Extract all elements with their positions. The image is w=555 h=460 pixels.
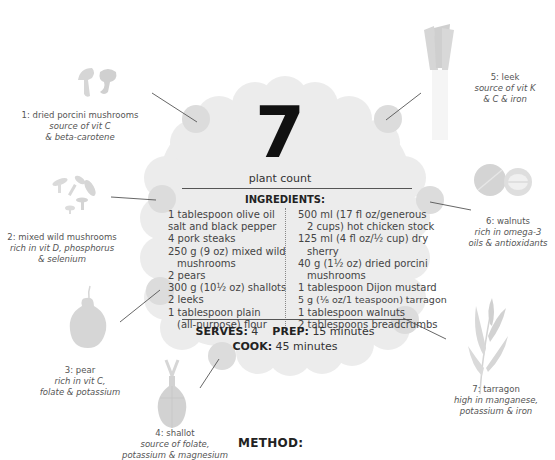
plant-note: potassium & iron	[436, 406, 555, 417]
ingredient-item: 500 ml (17 fl oz/generous	[298, 209, 447, 221]
ingredient-item: 300 g (10½ oz) shallots	[168, 282, 286, 294]
plant-note: high in manganese,	[436, 395, 555, 406]
tarragon-icon	[462, 296, 512, 396]
plant-note: & beta-carotene	[10, 132, 150, 143]
ingredient-item: 1 tablespoon plain	[168, 307, 286, 319]
cook-label: COOK:	[232, 340, 272, 353]
serves-label: SERVES:	[196, 325, 248, 338]
pear-icon	[64, 284, 114, 354]
plant-name: 6: walnuts	[486, 216, 530, 226]
wild-mushrooms-icon	[48, 172, 108, 222]
plant-note: rich in vit D, phosphorus	[0, 243, 124, 254]
ingredient-item: 2 pears	[168, 270, 286, 282]
plant-name: 7: tarragon	[472, 384, 520, 394]
divider-top	[182, 188, 412, 189]
ingredient-item: 2 cups) hot chicken stock	[298, 221, 447, 233]
ingredients-title: INGREDIENTS:	[160, 194, 410, 205]
ingredient-item: 2 leeks	[168, 294, 286, 306]
ingredient-item: 250 g (9 oz) mixed wild	[168, 246, 286, 258]
column-divider	[285, 208, 286, 332]
plant-count-label: plant count	[230, 172, 330, 185]
shallot-icon	[152, 356, 192, 436]
serves-value: 4	[251, 325, 258, 338]
ingredient-item: 1 tablespoon olive oil	[168, 209, 286, 221]
plant-label-leek: 5: leek source of vit K & C & iron	[460, 72, 550, 105]
plant-name: 5: leek	[491, 72, 520, 82]
plant-label-tarragon: 7: tarragon high in manganese, potassium…	[436, 384, 555, 417]
ingredient-item: 5 g (⅛ oz/1 teaspoon) tarragon	[298, 294, 447, 306]
prep-label: PREP:	[272, 325, 309, 338]
ingredient-item: sherry	[298, 246, 447, 258]
ingredient-item: 4 pork steaks	[168, 233, 286, 245]
ingredients-left-column: 1 tablespoon olive oil salt and black pe…	[168, 209, 286, 331]
ingredient-item: mushrooms	[298, 270, 447, 282]
ingredient-item: mushrooms	[168, 258, 286, 270]
leek-icon	[420, 22, 460, 142]
plant-label-pear: 3: pear rich in vit C, folate & potassiu…	[20, 365, 140, 398]
divider-bottom	[182, 319, 412, 320]
ingredient-item: 1 tablespoon walnuts	[298, 307, 447, 319]
plant-count-number: 7	[250, 96, 310, 168]
plant-note: potassium & magnesium	[105, 450, 245, 460]
ingredient-item: 125 ml (4 fl oz/½ cup) dry	[298, 233, 447, 245]
ingredient-item: salt and black pepper	[168, 221, 286, 233]
plant-note: rich in vit C,	[20, 376, 140, 387]
walnuts-icon	[472, 160, 542, 200]
ingredient-item: 1 tablespoon Dijon mustard	[298, 282, 447, 294]
cook-line: COOK: 45 minutes	[160, 340, 410, 353]
method-heading: METHOD:	[238, 436, 303, 450]
plant-note: source of vit K	[460, 83, 550, 94]
plant-name: 1: dried porcini mushrooms	[22, 110, 139, 120]
plant-note: source of vit C	[10, 121, 150, 132]
plant-note: & C & iron	[460, 94, 550, 105]
ingredients-right-column: 500 ml (17 fl oz/generous 2 cups) hot ch…	[298, 209, 447, 331]
plant-name: 4: shallot	[155, 428, 194, 438]
plant-note: source of folate,	[105, 439, 245, 450]
plant-label-porcini: 1: dried porcini mushrooms source of vit…	[10, 110, 150, 143]
plant-label-wild-mushrooms: 2: mixed wild mushrooms rich in vit D, p…	[0, 232, 124, 265]
cook-value: 45 minutes	[276, 340, 338, 353]
serves-prep-line: SERVES: 4 PREP: 15 minutes	[160, 325, 410, 338]
porcini-mushroom-icon	[70, 62, 130, 112]
plant-name: 2: mixed wild mushrooms	[7, 232, 116, 242]
plant-note: & selenium	[0, 254, 124, 265]
plant-note: rich in omega-3	[458, 227, 555, 238]
prep-value: 15 minutes	[312, 325, 374, 338]
plant-label-shallot: 4: shallot source of folate, potassium &…	[105, 428, 245, 460]
plant-label-walnuts: 6: walnuts rich in omega-3 oils & antiox…	[458, 216, 555, 249]
plant-note: folate & potassium	[20, 387, 140, 398]
ingredient-item: 40 g (1½ oz) dried porcini	[298, 258, 447, 270]
plant-name: 3: pear	[65, 365, 95, 375]
plant-note: oils & antioxidants	[458, 238, 555, 249]
